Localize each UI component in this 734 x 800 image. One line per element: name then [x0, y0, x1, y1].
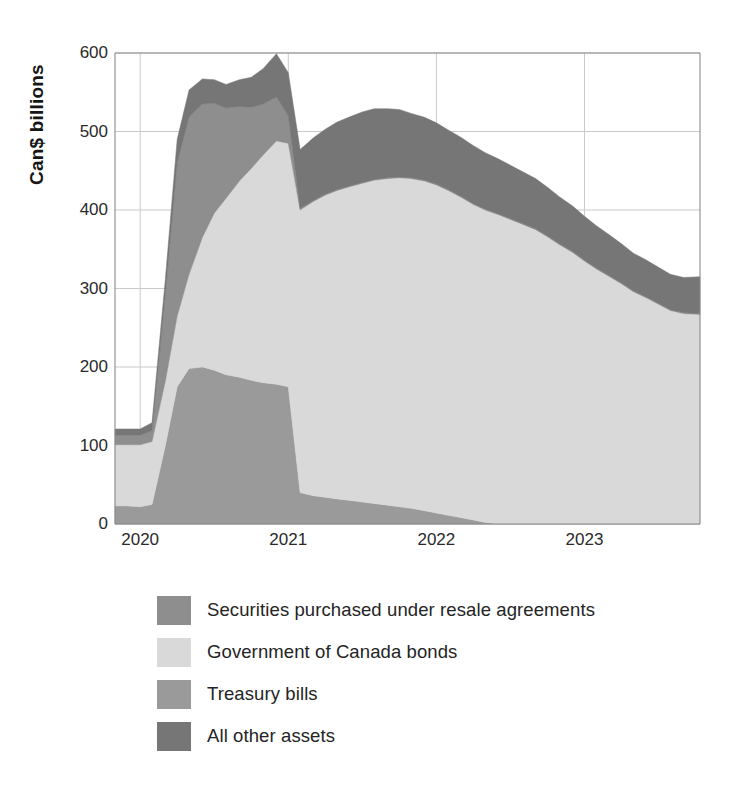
area-series-group	[115, 54, 700, 524]
legend-item[interactable]: Government of Canada bonds	[157, 634, 717, 670]
chart-legend: Securities purchased under resale agreem…	[157, 592, 717, 760]
legend-swatch-icon	[157, 596, 191, 625]
chart-plot-area: Can$ billions 0100200300400500600 202020…	[0, 0, 734, 570]
legend-label: Government of Canada bonds	[207, 641, 457, 663]
stacked-area-chart	[0, 0, 734, 570]
legend-label: Securities purchased under resale agreem…	[207, 599, 595, 621]
x-axis-tick-label: 2022	[417, 530, 455, 550]
figure: Can$ billions 0100200300400500600 202020…	[0, 0, 734, 800]
x-axis-tick-label: 2021	[269, 530, 307, 550]
legend-item[interactable]: All other assets	[157, 718, 717, 754]
legend-item[interactable]: Treasury bills	[157, 676, 717, 712]
legend-label: All other assets	[207, 725, 335, 747]
legend-swatch-icon	[157, 680, 191, 709]
legend-label: Treasury bills	[207, 683, 318, 705]
legend-swatch-icon	[157, 638, 191, 667]
legend-swatch-icon	[157, 722, 191, 751]
x-axis-tick-label: 2023	[566, 530, 604, 550]
legend-item[interactable]: Securities purchased under resale agreem…	[157, 592, 717, 628]
x-axis-tick-label: 2020	[121, 530, 159, 550]
